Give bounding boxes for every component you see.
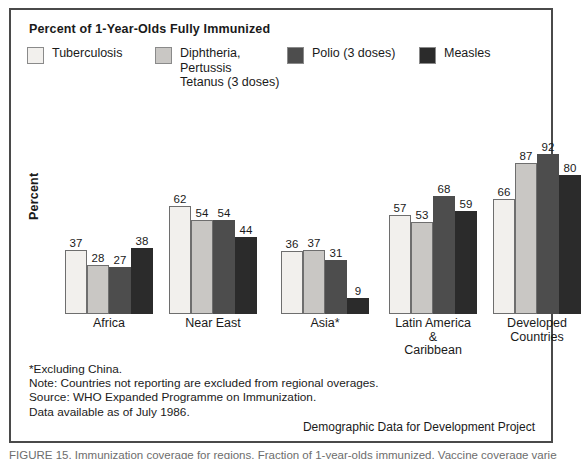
bar[interactable] (235, 237, 257, 314)
bar-value-label: 37 (308, 237, 321, 249)
bar-value-label: 37 (70, 237, 83, 249)
bar-item[interactable]: 66 (493, 199, 515, 314)
legend-label-dpt: Diphtheria, Pertussis Tetanus (3 doses) (180, 46, 279, 90)
bar[interactable] (455, 211, 477, 314)
bar-item[interactable]: 31 (325, 260, 347, 314)
bar-item[interactable]: 54 (191, 220, 213, 314)
bar[interactable] (65, 250, 87, 314)
bar[interactable] (131, 248, 153, 314)
bar-stack: 37282738Africa (65, 248, 153, 314)
bar-group: 62545444Near East (169, 102, 257, 314)
y-axis-label: Percent (27, 173, 41, 220)
bar[interactable] (493, 199, 515, 314)
bar-value-label: 38 (136, 235, 149, 247)
legend-item-measles: Measles (419, 46, 491, 64)
bar-value-label: 59 (460, 198, 473, 210)
bar-item[interactable]: 37 (65, 250, 87, 314)
bar[interactable] (559, 175, 581, 314)
bar-item[interactable]: 37 (303, 250, 325, 314)
footnote-line: *Excluding China. (29, 362, 379, 376)
bar-value-label: 53 (416, 209, 429, 221)
bar-stack: 3637319Asia* (281, 250, 369, 314)
bar-item[interactable]: 68 (433, 196, 455, 314)
bar[interactable] (433, 196, 455, 314)
plot-area: Percent 37282738Africa62545444Near East3… (29, 102, 541, 314)
bar-value-label: 62 (174, 193, 187, 205)
bar-group: 57536859Latin America & Caribbean (389, 102, 477, 314)
bar[interactable] (213, 220, 235, 314)
legend-swatch-dpt (155, 47, 172, 64)
bar[interactable] (325, 260, 347, 314)
legend-swatch-tuberculosis (27, 47, 44, 64)
bar-value-label: 44 (240, 224, 253, 236)
bar-stack: 62545444Near East (169, 206, 257, 314)
chart-title: Percent of 1-Year-Olds Fully Immunized (29, 22, 270, 36)
legend-item-tuberculosis: Tuberculosis (27, 46, 122, 64)
bar-item[interactable]: 59 (455, 211, 477, 314)
bar[interactable] (537, 154, 559, 314)
group-axis-label: Developed Countries (493, 317, 581, 344)
bar-value-label: 28 (92, 252, 105, 264)
bar-item[interactable]: 62 (169, 206, 191, 314)
chart-legend: Tuberculosis Diphtheria, Pertussis Tetan… (27, 46, 537, 98)
legend-label-polio: Polio (3 doses) (312, 46, 395, 61)
credit-line: Demographic Data for Development Project (303, 420, 535, 434)
legend-item-dpt: Diphtheria, Pertussis Tetanus (3 doses) (155, 46, 279, 90)
bar-value-label: 54 (196, 207, 209, 219)
bar[interactable] (87, 265, 109, 314)
bar-item[interactable]: 27 (109, 267, 131, 314)
bar-item[interactable]: 38 (131, 248, 153, 314)
bar-value-label: 68 (438, 183, 451, 195)
bar-group: 66879280Developed Countries (493, 102, 581, 314)
legend-label-measles: Measles (444, 46, 491, 61)
legend-swatch-measles (419, 47, 436, 64)
bar-value-label: 36 (286, 238, 299, 250)
group-axis-label: Latin America & Caribbean (389, 317, 477, 358)
bar-value-label: 57 (394, 202, 407, 214)
bar[interactable] (303, 250, 325, 314)
bar-stack: 66879280Developed Countries (493, 154, 581, 314)
footnote-line: Data available as of July 1986. (29, 405, 379, 419)
bar-item[interactable]: 28 (87, 265, 109, 314)
bar[interactable] (347, 298, 369, 314)
footnotes: *Excluding China. Note: Countries not re… (29, 362, 379, 419)
footnote-line: Note: Countries not reporting are exclud… (29, 376, 379, 390)
group-axis-label: Africa (65, 317, 153, 331)
group-axis-label: Near East (169, 317, 257, 331)
bar-value-label: 66 (498, 186, 511, 198)
bar[interactable] (389, 215, 411, 314)
figure-caption: FIGURE 15. Immunization coverage for reg… (9, 449, 557, 459)
bar-value-label: 27 (114, 254, 127, 266)
bar-value-label: 87 (520, 150, 533, 162)
bar[interactable] (281, 251, 303, 314)
bar-group: 3637319Asia* (281, 102, 369, 314)
bar-group: 37282738Africa (65, 102, 153, 314)
legend-item-polio: Polio (3 doses) (287, 46, 395, 64)
bar-item[interactable]: 80 (559, 175, 581, 314)
legend-swatch-polio (287, 47, 304, 64)
bar-stack: 57536859Latin America & Caribbean (389, 196, 477, 314)
figure-frame: Percent of 1-Year-Olds Fully Immunized T… (9, 8, 553, 443)
bar-value-label: 31 (330, 247, 343, 259)
bar-value-label: 54 (218, 207, 231, 219)
bar-item[interactable]: 87 (515, 163, 537, 314)
bar-item[interactable]: 57 (389, 215, 411, 314)
bar-item[interactable]: 92 (537, 154, 559, 314)
bar[interactable] (411, 222, 433, 314)
bar-item[interactable]: 54 (213, 220, 235, 314)
bar-item[interactable]: 9 (347, 298, 369, 314)
bar-item[interactable]: 36 (281, 251, 303, 314)
bar-value-label: 92 (542, 141, 555, 153)
bar[interactable] (109, 267, 131, 314)
footnote-line: Source: WHO Expanded Programme on Immuni… (29, 390, 379, 404)
bar-value-label: 9 (355, 285, 361, 297)
group-axis-label: Asia* (281, 317, 369, 331)
bar-item[interactable]: 44 (235, 237, 257, 314)
bar-item[interactable]: 53 (411, 222, 433, 314)
bar-value-label: 80 (564, 162, 577, 174)
bar-groups: 37282738Africa62545444Near East3637319As… (51, 102, 541, 314)
bar[interactable] (515, 163, 537, 314)
legend-label-tuberculosis: Tuberculosis (52, 46, 122, 61)
bar[interactable] (191, 220, 213, 314)
bar[interactable] (169, 206, 191, 314)
